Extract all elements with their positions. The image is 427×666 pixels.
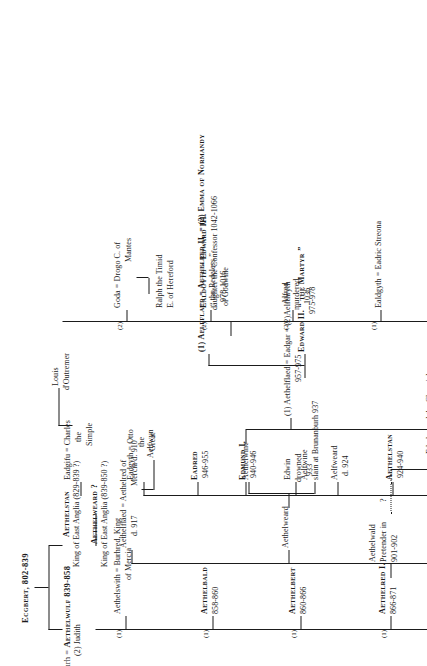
stub-edward2	[304, 354, 305, 366]
node-goda-sub: Mantes	[124, 238, 133, 262]
node-ealdgyth-edward-sub2: of Godwine	[221, 267, 230, 306]
marker-ealdgyth: (1)	[369, 322, 377, 330]
stub-eadgifu	[80, 482, 81, 496]
marker-alfred-murdered: (2)	[281, 322, 289, 330]
node-ralph: Ralph the Timid	[155, 254, 164, 308]
stub-eadgyth	[143, 482, 144, 496]
marker-goda: (2)	[115, 322, 123, 330]
node-aethelwulf-name: Aethelwulf 839-858	[61, 566, 71, 648]
node-aethelweard-east-anglia-sub: King of East Anglia (839-850 ?)	[100, 461, 109, 567]
node-aethelflaed-sub: d. 917	[130, 515, 139, 536]
stub-aethelweard	[288, 550, 289, 564]
node-aethelstan-east-anglia-sub: King of East Anglia (829-839 ?)	[72, 461, 81, 567]
connector-alfred-spine	[131, 563, 427, 564]
connector-aethelweard-spine	[248, 493, 314, 494]
node-eadgyth-sub2: Great	[148, 433, 157, 451]
stub-aethelstan	[392, 482, 393, 496]
node-edwin-sub2: 933	[305, 464, 314, 476]
connector-aethelweard-issue	[288, 494, 289, 508]
stub-edwin	[295, 482, 296, 496]
node-eadred-sub: 946-955	[201, 451, 210, 478]
connector-eadgifu-down	[58, 425, 72, 426]
node-aethelstan-east-anglia: Aethelstan	[62, 491, 71, 537]
node-edwin: Edwin	[283, 459, 292, 480]
node-aethelbald: Aethelbald	[200, 567, 209, 614]
node-aethelred1: Aethelred I.	[378, 563, 387, 614]
stub-aethelwine	[248, 482, 249, 494]
node-aethelstan: Aethelstan	[385, 434, 394, 480]
connector-to-aethelwulf	[48, 629, 62, 630]
node-alfred-murdered-sub: murdered	[292, 279, 301, 310]
stub-aethelswith	[125, 616, 126, 630]
connector-aethelwulf-spine	[95, 629, 427, 630]
stub-alfred-murdered	[292, 310, 293, 322]
node-ecgbert: Ecgbert, 802-839	[20, 553, 30, 623]
node-eadgifu-sub2: Simple	[85, 423, 94, 446]
node-osburh: Osburh =	[61, 648, 71, 666]
connector-aelfwyn	[153, 460, 154, 490]
node-aethelweard-east-anglia: Aethelweard ?	[90, 484, 99, 544]
genealogical-chart: Ecgbert, 802-839 (1) Osburh = Aethelwulf…	[0, 0, 427, 666]
stub-goda	[126, 310, 127, 322]
node-eadgyth-sub: the	[137, 437, 146, 447]
node-eadred: Eadred	[190, 451, 199, 480]
node-aethelstan-sub: 924-940	[396, 451, 405, 478]
node-aelfweard-sub: d. 924	[341, 455, 350, 476]
stub-aethelbald	[212, 616, 213, 630]
connector-goda-down	[136, 277, 148, 278]
node-aethelwulf: (1) Osburh = Aethelwulf 839-858	[62, 566, 72, 666]
connector-ecgbert-down	[34, 587, 48, 588]
node-judith: (2) Judith	[73, 624, 82, 656]
node-eadgifu-sub: the	[74, 432, 83, 442]
stub-aethelflaed	[131, 550, 132, 564]
connector-ecgbert-bar	[48, 546, 49, 630]
connector-aethelred1-issue	[390, 564, 391, 578]
node-aethelwald-sub: Pretender in	[379, 522, 388, 562]
node-alfred-murdered-sub2: 1036	[303, 288, 312, 304]
connector-edward-elder-spine	[143, 495, 427, 496]
connector-edmund1-spine	[245, 429, 427, 430]
node-aethelbert-sub: 860-866	[299, 587, 308, 614]
stub-edmund1	[245, 482, 246, 496]
marker-aethelswith: (1)	[114, 630, 122, 638]
connector-to-eastanglia	[48, 545, 62, 546]
stub-edward-confessor	[210, 310, 211, 322]
marker-aethelred1: (1)	[379, 630, 387, 638]
connector-eadgar-down	[304, 366, 305, 378]
node-aethelwald: Aethelwald	[368, 524, 377, 562]
node-aethelbald-sub: 858-860	[211, 587, 220, 614]
connector-louis	[58, 388, 59, 426]
node-eadgyth: Eadgyth = Otto	[126, 429, 135, 480]
node-aethelwald-sub2: 901-902	[390, 535, 399, 562]
marker-edward-confessor: (2)	[199, 322, 207, 330]
node-edmund1: Edmund I.	[238, 441, 247, 480]
node-louis: Louis	[51, 367, 60, 386]
node-eadgar-sub: 957-975	[294, 355, 303, 382]
node-aethelweard: Aethelweard	[281, 506, 290, 548]
connector-ralph	[148, 278, 149, 294]
node-aethelbert: Aethelbert	[288, 567, 297, 614]
marker-aethelbert: (1)	[289, 630, 297, 638]
node-ealdgyth-edward: Ealdgyth = Edward III.	[199, 214, 208, 308]
marriage-marker-2: (2)	[72, 646, 81, 656]
stub-eadred	[197, 482, 198, 496]
node-edwin-sub: drowned	[294, 453, 303, 482]
stub-aethelred1	[390, 616, 391, 630]
node-eadgifu: Eadgifu = Charles	[63, 420, 72, 480]
node-ealdgyth-edward-sub: daughter the Confessor 1042-1066	[210, 196, 219, 310]
stub-eadgar	[290, 418, 291, 430]
node-alfred-murdered: Alfred	[281, 283, 290, 304]
stub-aethelbert	[300, 616, 301, 630]
node-aelfweard: Aelfweard	[330, 445, 339, 480]
stub-aethelred2	[208, 354, 209, 366]
marker-aethelbald: (1)	[201, 630, 209, 638]
connector-edmund1-issue	[245, 430, 246, 444]
node-goda: Goda = Drogo C. of	[113, 242, 122, 308]
connector-eadgar-spine	[208, 365, 304, 366]
connector-aethelred2-down	[230, 322, 231, 336]
node-louis-sub: d'Outremer	[62, 353, 71, 390]
node-query: ?	[379, 498, 388, 502]
node-aethelred1-sub: 866-871	[389, 587, 398, 614]
stub-aelfwine	[314, 482, 315, 494]
stub-aelfweard	[337, 482, 338, 496]
